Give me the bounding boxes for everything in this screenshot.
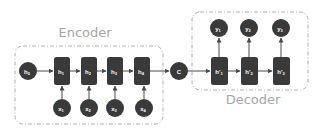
svg-text:x3: x3 <box>111 106 117 113</box>
encoder-label: Encoder <box>58 25 112 40</box>
svg-text:x1: x1 <box>58 106 64 113</box>
node-h0: h0 <box>19 62 37 80</box>
node-x3: x3 <box>106 99 124 117</box>
node-y1: y1 <box>210 19 228 37</box>
node-h2-prime: h'2 <box>241 57 258 85</box>
svg-text:h'3: h'3 <box>277 69 285 76</box>
node-x1: x1 <box>53 99 71 117</box>
node-h3-prime: h'3 <box>273 57 290 85</box>
decoder-edges <box>188 38 281 71</box>
svg-text:h0: h0 <box>24 69 31 76</box>
node-h2: h2 <box>81 57 97 85</box>
node-h4: h4 <box>134 57 150 85</box>
node-h3: h3 <box>107 57 123 85</box>
svg-text:h2: h2 <box>85 69 92 76</box>
node-x2: x2 <box>80 99 98 117</box>
svg-text:h3: h3 <box>111 69 118 76</box>
node-y3: y3 <box>272 19 290 37</box>
svg-text:h'1: h'1 <box>215 69 223 76</box>
svg-text:h4: h4 <box>138 69 145 76</box>
encoder-decoder-diagram: Encoder Decoder h0 h1 h2 <box>0 0 321 133</box>
svg-text:x2: x2 <box>85 106 91 113</box>
node-x4: x4 <box>135 99 153 117</box>
svg-text:h1: h1 <box>58 69 65 76</box>
node-context: C <box>170 62 188 80</box>
svg-text:h'2: h'2 <box>245 69 253 76</box>
node-h1-prime: h'1 <box>211 57 228 85</box>
decoder-label: Decoder <box>226 92 281 107</box>
svg-text:y3: y3 <box>277 26 283 33</box>
node-y2: y2 <box>240 19 258 37</box>
svg-text:y1: y1 <box>215 26 221 33</box>
svg-text:C: C <box>177 69 182 75</box>
node-h1: h1 <box>54 57 70 85</box>
svg-text:x4: x4 <box>140 106 146 113</box>
svg-text:y2: y2 <box>245 26 251 33</box>
